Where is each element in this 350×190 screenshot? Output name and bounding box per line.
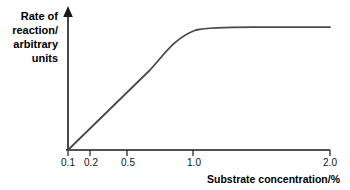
y-axis-title-line: reaction/ bbox=[12, 24, 58, 36]
data-series-line bbox=[68, 27, 330, 150]
chart-figure: 0.1 0.2 0.5 1.0 2.0 Substrate concentrat… bbox=[0, 0, 350, 190]
x-tick-label: 0.1 bbox=[61, 157, 75, 168]
y-axis-title-line: units bbox=[32, 52, 58, 64]
x-tick-label: 0.5 bbox=[121, 157, 135, 168]
y-axis-arrow-icon bbox=[63, 6, 73, 17]
x-tick-label: 2.0 bbox=[323, 157, 337, 168]
y-axis bbox=[63, 6, 73, 150]
x-axis-title: Substrate concentration/% bbox=[207, 173, 341, 185]
y-axis-title: Rate of reaction/ arbitrary units bbox=[12, 10, 59, 64]
x-tick-label: 0.2 bbox=[84, 157, 98, 168]
y-axis-title-line: arbitrary bbox=[13, 38, 59, 50]
x-tick-label: 1.0 bbox=[187, 157, 201, 168]
y-axis-title-line: Rate of bbox=[21, 10, 59, 22]
chart-canvas: 0.1 0.2 0.5 1.0 2.0 Substrate concentrat… bbox=[0, 0, 350, 190]
x-axis bbox=[66, 150, 330, 156]
